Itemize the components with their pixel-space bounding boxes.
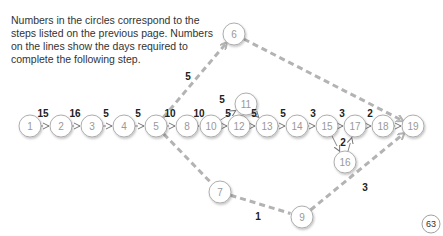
days-label: 5 (135, 108, 141, 119)
step-node-9: 9 (291, 206, 313, 228)
step-number: 19 (407, 121, 419, 132)
days-label: 2 (340, 137, 346, 148)
days-label: 1 (255, 211, 261, 222)
step-number: 2 (58, 121, 64, 132)
days-label: 5 (225, 108, 231, 119)
days-label: 15 (37, 108, 49, 119)
edge-5-to-7 (164, 134, 212, 183)
step-node-17: 17 (344, 115, 366, 137)
step-node-18: 18 (372, 115, 394, 137)
step-number: 6 (231, 29, 237, 40)
edge-6-to-19 (244, 39, 403, 120)
step-node-3: 3 (81, 115, 103, 137)
days-label: 5 (251, 108, 257, 119)
step-number: 5 (153, 121, 159, 132)
step-node-7: 7 (209, 181, 231, 203)
days-label: 16 (69, 108, 81, 119)
edge-15-to-16 (332, 136, 340, 151)
step-number: 17 (349, 121, 361, 132)
days-label: 3 (310, 108, 316, 119)
step-node-6: 6 (223, 23, 245, 45)
days-label: 5 (280, 108, 286, 119)
step-node-16: 16 (334, 151, 356, 173)
days-label: 10 (193, 108, 205, 119)
step-number: 13 (261, 121, 273, 132)
edge-5-to-6 (163, 43, 226, 117)
step-number: 14 (291, 121, 303, 132)
days-label: 3 (362, 182, 368, 193)
edge-9-to-19 (311, 134, 404, 210)
step-number: 4 (121, 121, 127, 132)
step-node-15: 15 (316, 115, 338, 137)
days-label: 3 (339, 108, 345, 119)
step-node-14: 14 (286, 115, 308, 137)
days-label: 5 (103, 108, 109, 119)
step-number: 16 (339, 157, 351, 168)
step-number: 9 (299, 212, 305, 223)
days-label: 5 (219, 94, 225, 105)
step-number: 11 (241, 99, 252, 110)
step-number: 8 (184, 121, 190, 132)
days-label: 10 (164, 108, 176, 119)
edge-16-to-17 (348, 138, 352, 152)
days-label: 2 (367, 108, 373, 119)
step-number: 1 (27, 121, 33, 132)
step-number: 10 (205, 121, 217, 132)
critical-path-diagram: 12345810121314151718191116679 1516551010… (0, 0, 443, 236)
step-node-19: 19 (402, 115, 424, 137)
page-number-badge: 63 (422, 215, 440, 233)
step-number: 15 (321, 121, 333, 132)
step-number: 7 (217, 187, 223, 198)
step-node-4: 4 (113, 115, 135, 137)
edge-labels-layer: 151655101055553322513 (37, 71, 373, 222)
days-label: 5 (185, 71, 191, 82)
page-number: 63 (426, 219, 436, 229)
step-node-13: 13 (256, 115, 278, 137)
step-number: 3 (89, 121, 95, 132)
step-number: 12 (233, 121, 245, 132)
step-node-12: 12 (228, 115, 250, 137)
step-number: 18 (377, 121, 389, 132)
